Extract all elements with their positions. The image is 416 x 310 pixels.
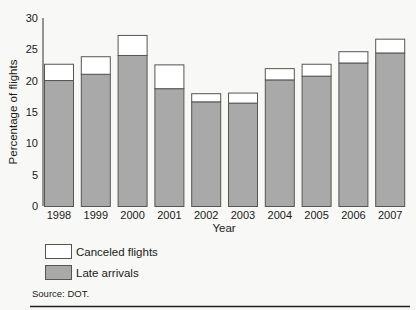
x-tick-labels: 1998199920002001200220032004200520062007 (47, 209, 403, 221)
bar-late-arrivals (155, 89, 184, 207)
x-tick-label: 2005 (304, 209, 328, 221)
source-note: Source: DOT. (32, 288, 89, 299)
bar-late-arrivals (81, 74, 110, 206)
y-tick-label: 20 (26, 75, 38, 87)
bar-canceled-flights (155, 65, 184, 89)
bar-late-arrivals (376, 53, 405, 207)
legend-label-late: Late arrivals (76, 267, 139, 279)
legend-item-late: Late arrivals (46, 266, 139, 280)
legend-swatch-late (46, 266, 72, 280)
bar-late-arrivals (302, 76, 331, 206)
x-tick-label: 1998 (47, 209, 71, 221)
x-tick-label: 2002 (194, 209, 218, 221)
y-axis-label: Percentage of flights (7, 59, 19, 164)
legend-item-canceled: Canceled flights (46, 245, 159, 259)
y-tick-label: 15 (26, 106, 38, 118)
x-tick-label: 2006 (341, 209, 365, 221)
legend: Canceled flights Late arrivals (46, 245, 159, 280)
y-tick-label: 10 (26, 137, 38, 149)
bar-canceled-flights (118, 35, 147, 55)
x-tick-label: 2004 (268, 209, 292, 221)
bar-late-arrivals (265, 80, 294, 207)
bar-late-arrivals (45, 81, 74, 207)
y-tick-label: 5 (32, 169, 38, 181)
bar-canceled-flights (81, 57, 110, 75)
bar-canceled-flights (339, 52, 368, 63)
bar-canceled-flights (229, 93, 258, 103)
x-tick-label: 2000 (120, 209, 144, 221)
bar-canceled-flights (376, 39, 405, 53)
bar-canceled-flights (265, 69, 294, 80)
y-tick-labels: 051015202530 (26, 12, 38, 212)
x-tick-label: 2007 (378, 209, 402, 221)
y-tick-label: 30 (26, 12, 38, 24)
y-tick-label: 0 (32, 200, 38, 212)
bar-late-arrivals (118, 55, 147, 206)
bar-canceled-flights (302, 64, 331, 76)
bar-late-arrivals (339, 63, 368, 207)
y-tick-label: 25 (26, 43, 38, 55)
bar-canceled-flights (45, 64, 74, 80)
bar-late-arrivals (229, 103, 258, 206)
x-tick-label: 2003 (231, 209, 255, 221)
bars-group (45, 35, 405, 206)
x-tick-label: 2001 (157, 209, 181, 221)
bar-canceled-flights (192, 94, 221, 102)
stacked-bar-chart: 051015202530 199819992000200120022003200… (0, 0, 416, 310)
x-axis-label: Year (212, 222, 235, 234)
bar-late-arrivals (192, 102, 221, 207)
x-tick-label: 1999 (84, 209, 108, 221)
legend-label-canceled: Canceled flights (76, 246, 158, 258)
legend-swatch-canceled (46, 245, 72, 259)
